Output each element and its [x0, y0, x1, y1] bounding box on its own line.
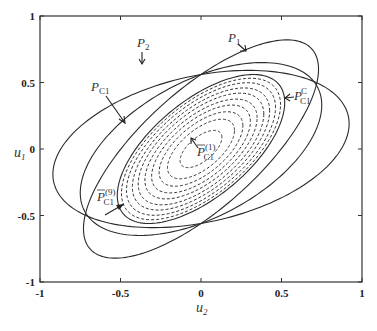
- y-tick-label: -1: [26, 276, 35, 288]
- label-p1: P1: [227, 30, 246, 51]
- axis-ticks: -1-0.500.51-1-0.500.51: [18, 10, 365, 299]
- svg-text:P(9)C1: P(9)C1: [96, 187, 115, 207]
- svg-text:PC1: PC1: [90, 79, 109, 96]
- x-tick-label: 0.5: [275, 287, 289, 299]
- x-axis-label: u2: [196, 300, 208, 317]
- y-tick-label: 0: [30, 143, 36, 155]
- x-tick-label: -0.5: [112, 287, 130, 299]
- svg-text:PCC1: PCC1: [293, 86, 310, 106]
- svg-text:P2: P2: [136, 35, 149, 52]
- x-tick-label: 1: [359, 287, 365, 299]
- x-tick-label: -1: [35, 287, 44, 299]
- y-tick-label: 1: [30, 10, 36, 22]
- label-pc1-1: P(1)C1: [191, 138, 215, 162]
- ellipse-diagram: -1-0.500.51-1-0.500.51 u2 u1 P1 P2 PC1 P…: [0, 0, 377, 331]
- label-pcc: PCC1: [285, 86, 310, 106]
- x-tick-label: 0: [198, 287, 204, 299]
- arrow-pc1: [106, 96, 125, 123]
- svg-text:P(1)C1: P(1)C1: [196, 142, 215, 162]
- y-tick-label: -0.5: [18, 210, 36, 222]
- label-p2: P2: [136, 35, 149, 64]
- y-axis-label: u1: [14, 145, 26, 162]
- label-pc1-9: P(9)C1: [96, 187, 124, 215]
- y-tick-label: 0.5: [21, 77, 35, 89]
